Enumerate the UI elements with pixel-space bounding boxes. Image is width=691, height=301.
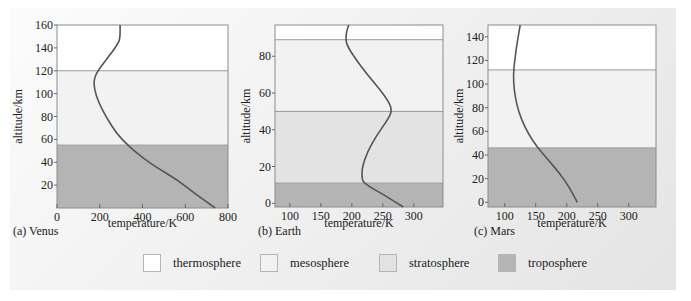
x-tick-label: 100: [496, 209, 514, 223]
y-tick-label: 0: [478, 195, 484, 209]
y-tick-label: 120: [466, 53, 484, 67]
caption-venus: (a) Venus: [13, 224, 58, 239]
troposphere-band: [275, 183, 443, 207]
x-tick-label: 100: [281, 209, 299, 223]
x-tick-label: 600: [176, 210, 194, 224]
y-tick-label: 100: [35, 87, 53, 101]
y-tick-label: 20: [259, 160, 271, 174]
legend: thermosphere mesosphere stratosphere tro…: [0, 253, 691, 275]
legend-item-troposphere: troposphere: [498, 253, 587, 273]
stratosphere-swatch: [379, 254, 397, 272]
y-axis-label: altitude/km: [239, 88, 253, 143]
legend-item-mesosphere: mesosphere: [260, 253, 349, 273]
y-tick-label: 60: [472, 124, 484, 138]
legend-label: mesosphere: [290, 256, 349, 271]
y-tick-label: 0: [265, 196, 271, 210]
y-tick-label: 120: [35, 64, 53, 78]
legend-item-stratosphere: stratosphere: [379, 253, 469, 273]
troposphere-swatch: [498, 254, 516, 272]
chart-earth: 100150200250300020406080temperature/Kalt…: [239, 25, 443, 230]
y-tick-label: 80: [472, 101, 484, 115]
y-tick-label: 160: [35, 18, 53, 32]
x-axis-label: temperature/K: [108, 216, 178, 230]
chart-mars: 100150200250300020406080100120140tempera…: [452, 25, 656, 230]
y-tick-label: 40: [472, 148, 484, 162]
caption-mars: (c) Mars: [474, 224, 515, 239]
x-tick-label: 800: [219, 210, 237, 224]
y-tick-label: 20: [41, 178, 53, 192]
y-tick-label: 140: [35, 41, 53, 55]
thermosphere-band: [275, 25, 443, 40]
y-tick-label: 40: [41, 155, 53, 169]
mesosphere-band: [57, 71, 228, 145]
x-tick-label: 200: [91, 210, 109, 224]
mesosphere-swatch: [260, 254, 278, 272]
y-tick-label: 80: [41, 110, 53, 124]
caption-earth: (b) Earth: [258, 224, 301, 239]
chart-venus: 020040060080020406080100120140160tempera…: [11, 18, 237, 230]
legend-label: thermosphere: [173, 256, 241, 271]
thermosphere-band: [488, 25, 656, 70]
x-tick-label: 300: [405, 209, 423, 223]
y-axis-label: altitude/km: [452, 88, 466, 143]
legend-label: stratosphere: [409, 256, 469, 271]
x-axis-label: temperature/K: [324, 216, 394, 230]
x-tick-label: 300: [620, 209, 638, 223]
legend-label: troposphere: [528, 256, 587, 271]
y-tick-label: 60: [259, 86, 271, 100]
thermosphere-swatch: [143, 254, 161, 272]
y-tick-label: 20: [472, 172, 484, 186]
y-tick-label: 60: [41, 132, 53, 146]
thermosphere-band: [57, 25, 228, 71]
y-tick-label: 40: [259, 123, 271, 137]
troposphere-band: [488, 148, 656, 207]
y-axis-label: altitude/km: [11, 89, 25, 144]
x-axis-label: temperature/K: [537, 216, 607, 230]
y-tick-label: 140: [466, 30, 484, 44]
stratosphere-band: [275, 111, 443, 183]
y-tick-label: 80: [259, 49, 271, 63]
x-tick-label: 0: [54, 210, 60, 224]
mesosphere-band: [275, 40, 443, 112]
y-tick-label: 100: [466, 77, 484, 91]
legend-item-thermosphere: thermosphere: [143, 253, 241, 273]
